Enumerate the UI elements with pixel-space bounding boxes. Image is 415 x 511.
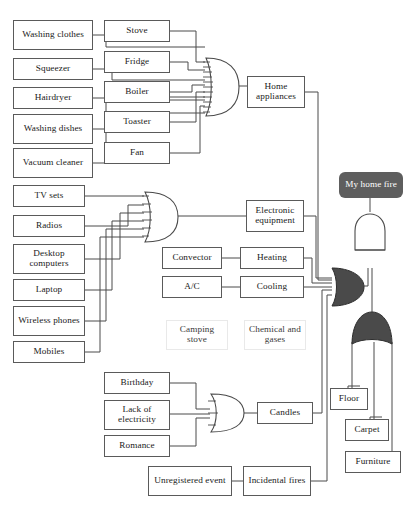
node-floor[interactable]: Floor — [330, 388, 368, 410]
node-label: Boiler — [125, 87, 149, 97]
node-toaster[interactable]: Toaster — [104, 111, 170, 133]
node-heating[interactable]: Heating — [240, 247, 304, 269]
node-label: Toaster — [123, 117, 151, 127]
node-label: Desktop computers — [16, 249, 82, 269]
node-label: Fridge — [125, 57, 150, 67]
node-radios[interactable]: Radios — [13, 215, 85, 237]
node-label: Squeezer — [36, 64, 70, 74]
node-desktop-computers[interactable]: Desktop computers — [13, 244, 85, 274]
or-gate-home-appliances[interactable] — [203, 56, 241, 118]
node-label: Washing clothes — [22, 30, 84, 40]
node-mobiles[interactable]: Mobiles — [13, 341, 85, 363]
wire-furniture-to-or — [388, 342, 392, 462]
node-label: A/C — [184, 282, 200, 292]
fault-tree-diagram: My home fire Washing clothes Squeezer Ha… — [0, 0, 415, 511]
node-label: Stove — [126, 26, 147, 36]
wire-radios — [85, 205, 144, 226]
wire-fridge — [170, 62, 205, 70]
and-gate-top-event[interactable] — [352, 212, 388, 252]
node-label: Wireless phones — [18, 316, 80, 326]
node-label: Fan — [130, 148, 144, 158]
node-label: Birthday — [121, 378, 154, 388]
wire-electronic-to-or — [304, 216, 332, 278]
node-laptop[interactable]: Laptop — [13, 279, 85, 301]
wire-boiler — [170, 85, 205, 92]
node-hairdryer[interactable]: Hairdryer — [13, 87, 93, 109]
node-label: Home appliances — [250, 82, 302, 102]
node-home-appliances[interactable]: Home appliances — [247, 76, 305, 108]
node-candles[interactable]: Candles — [257, 402, 313, 424]
top-event-label: My home fire — [345, 180, 397, 190]
wire-candles-to-or — [312, 290, 332, 413]
node-furniture[interactable]: Furniture — [345, 451, 401, 473]
wire-incidental-to-or — [310, 295, 332, 481]
node-stove[interactable]: Stove — [104, 20, 170, 42]
node-label: Washing dishes — [24, 124, 83, 134]
node-wireless-phones[interactable]: Wireless phones — [13, 306, 85, 336]
node-label: Radios — [36, 221, 62, 231]
node-label: Hairdryer — [35, 93, 72, 103]
node-label: Furniture — [355, 457, 390, 467]
node-carpet[interactable]: Carpet — [345, 419, 389, 441]
node-label: Unregistered event — [154, 476, 225, 486]
wire-wireless-phones — [85, 229, 144, 321]
node-washing-dishes[interactable]: Washing dishes — [13, 114, 93, 144]
or-gate-combustibles[interactable] — [350, 310, 394, 346]
node-label: Laptop — [36, 285, 63, 295]
wire-toaster — [170, 92, 205, 122]
node-convector[interactable]: Convector — [162, 247, 222, 269]
node-label: Chemical and gases — [247, 325, 303, 345]
node-label: TV sets — [35, 191, 64, 201]
node-tv-sets[interactable]: TV sets — [13, 185, 85, 207]
wire-fan — [170, 106, 205, 153]
node-vacuum-cleaner[interactable]: Vacuum cleaner — [13, 148, 93, 178]
node-cooling[interactable]: Cooling — [240, 276, 304, 298]
node-label: Heating — [257, 253, 287, 263]
or-gate-candles[interactable] — [208, 392, 246, 434]
node-ac[interactable]: A/C — [162, 276, 222, 298]
node-incidental-fires[interactable]: Incidental fires — [243, 466, 311, 496]
node-romance[interactable]: Romance — [104, 435, 170, 457]
node-fan[interactable]: Fan — [104, 142, 170, 164]
node-label: Lack of electricity — [107, 405, 167, 425]
node-boiler[interactable]: Boiler — [104, 81, 170, 103]
wire-mobiles — [85, 237, 144, 352]
node-washing-clothes[interactable]: Washing clothes — [13, 20, 93, 50]
node-electronic-equipment[interactable]: Electronic equipment — [246, 200, 304, 232]
node-label: Mobiles — [34, 347, 65, 357]
wire-home-appliances-to-or — [305, 92, 332, 280]
node-label: Convector — [172, 253, 211, 263]
wire-carpet-to-or — [370, 342, 374, 430]
wire-stove — [170, 31, 205, 62]
wire-birthday — [170, 383, 210, 409]
node-squeezer[interactable]: Squeezer — [13, 58, 93, 80]
node-label: Vacuum cleaner — [23, 158, 83, 168]
node-label: Camping stove — [169, 325, 225, 345]
node-chemical-and-gases[interactable]: Chemical and gases — [244, 320, 306, 350]
node-label: Electronic equipment — [249, 206, 301, 226]
node-camping-stove[interactable]: Camping stove — [166, 320, 228, 350]
node-fridge[interactable]: Fridge — [104, 51, 170, 73]
or-gate-electronic-equipment[interactable] — [142, 190, 180, 244]
node-top-event[interactable]: My home fire — [339, 172, 403, 198]
node-label: Candles — [270, 408, 300, 418]
wire-romance — [170, 418, 210, 446]
node-lack-of-electricity[interactable]: Lack of electricity — [104, 400, 170, 430]
node-birthday[interactable]: Birthday — [104, 372, 170, 394]
node-label: Floor — [339, 394, 359, 404]
node-label: Incidental fires — [249, 476, 306, 486]
node-label: Cooling — [257, 282, 287, 292]
wire-heating-to-or — [304, 258, 332, 283]
or-gate-ignition-sources[interactable] — [330, 266, 366, 308]
wire-desktop-computers — [85, 213, 144, 259]
node-label: Romance — [119, 441, 154, 451]
wire-laptop — [85, 221, 144, 290]
node-label: Carpet — [354, 425, 379, 435]
node-unregistered-event[interactable]: Unregistered event — [148, 466, 232, 496]
